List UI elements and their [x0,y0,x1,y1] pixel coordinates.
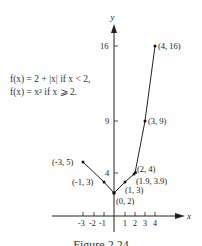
point-marker [154,45,157,48]
point-label: (2, 4) [137,164,156,174]
point-marker [82,161,85,164]
x-tick-1: 1 [123,219,127,228]
point-label: (1.9, 3.9) [136,176,167,186]
x-tick-4: 4 [153,219,157,228]
x-tick-neg3: -3 [78,219,85,228]
x-tick-neg1: -1 [99,219,106,228]
point-marker [103,181,106,184]
function-graph: y 16 9 4 x -3 -2 -1 1 2 3 4 [0,0,202,246]
formula-line-2: f(x) = x² if x ⩾ 2. [10,86,90,99]
point-label: (0, 2) [116,196,135,206]
figure-caption: Figure 2.24 [0,238,202,246]
point-label: (-1, 3) [72,177,93,187]
y-axis-arrow-icon [111,24,117,33]
x-axis: x -3 -2 -1 1 2 3 4 [52,211,191,228]
point-marker [144,120,147,123]
x-axis-arrow-icon [175,213,185,219]
point-label: (3, 9) [148,116,167,126]
point-label: (1, 3) [125,185,144,195]
y-tick-16: 16 [100,41,109,51]
y-tick-4: 4 [105,168,110,178]
function-definition: f(x) = 2 + |x| if x < 2, f(x) = x² if x … [10,73,90,99]
point-marker [112,191,116,195]
x-tick-2: 2 [133,219,137,228]
x-tick-neg2: -2 [89,219,96,228]
point-label: (-3, 5) [52,157,73,167]
x-tick-3: 3 [143,219,147,228]
formula-line-1: f(x) = 2 + |x| if x < 2, [10,73,90,86]
point-marker [124,181,127,184]
y-tick-9: 9 [105,116,109,126]
x-axis-label: x [186,211,191,221]
y-axis-label: y [110,12,115,22]
point-label: (4, 16) [158,41,181,51]
point-labels: (-3, 5) (-1, 3) (0, 2) (1, 3) (1.9, 3.9)… [52,41,181,206]
